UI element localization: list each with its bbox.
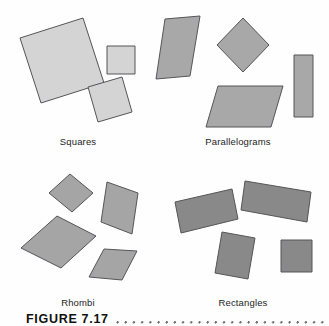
shape-tilted-rectangle-left xyxy=(175,189,238,233)
panel-shapes-parallelograms xyxy=(156,16,313,127)
panel-label-parallelograms: Parallelograms xyxy=(205,136,270,147)
shape-wide-parallelogram xyxy=(206,86,283,127)
shape-small-rhombus xyxy=(49,174,93,212)
shape-steep-parallelogram xyxy=(156,16,200,79)
shape-diamond-parallelogram xyxy=(217,18,269,72)
shape-slanted-rhombus xyxy=(89,249,137,280)
panel-shapes-squares xyxy=(20,18,135,122)
figure-container: Squares Parallelograms Rhombi Rectangles… xyxy=(0,0,329,326)
shapes-diagram xyxy=(0,0,329,326)
shape-upright-square-right xyxy=(281,240,312,272)
figure-caption-label: FIGURE 7.17 xyxy=(26,314,109,325)
shape-tall-rhombus xyxy=(101,182,138,234)
panel-shapes-rhombi xyxy=(21,174,138,280)
panel-label-squares: Squares xyxy=(60,136,96,147)
shape-large-rhombus xyxy=(21,216,96,268)
shape-long-tilted-rectangle xyxy=(241,181,311,222)
shape-tilted-square-center xyxy=(215,232,255,279)
figure-caption: FIGURE 7.17 xyxy=(0,314,329,326)
panel-shapes-rectangles xyxy=(175,181,312,279)
panel-label-rectangles: Rectangles xyxy=(218,297,267,308)
caption-dotted-rule xyxy=(116,314,325,325)
shape-small-upright-square xyxy=(107,46,135,74)
shape-tall-thin-rectangle xyxy=(294,55,313,117)
panel-label-rhombi: Rhombi xyxy=(61,297,95,308)
